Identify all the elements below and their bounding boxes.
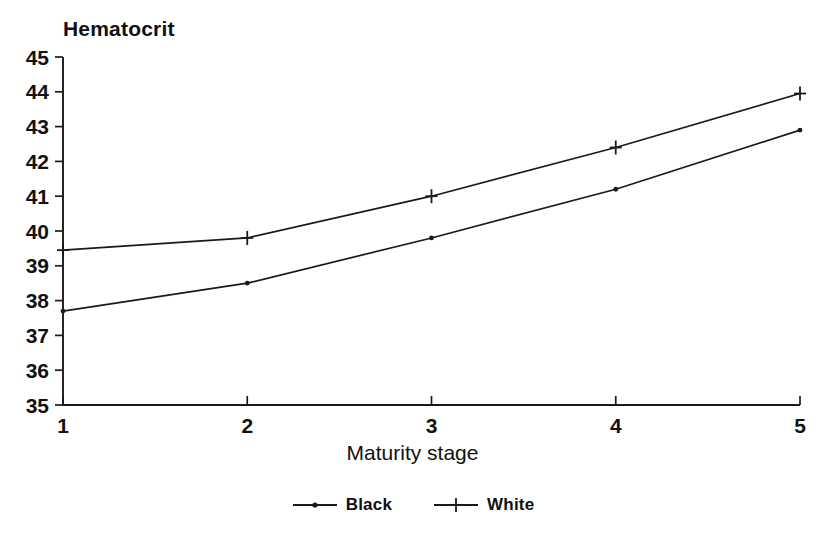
data-point-white (57, 243, 69, 257)
x-axis: 12345 (57, 396, 806, 437)
y-tick-label: 37 (26, 324, 49, 347)
y-tick-label: 41 (26, 185, 50, 208)
y-tick-label: 40 (26, 220, 49, 243)
y-tick-label: 35 (26, 394, 50, 417)
y-axis: 4544434241403938373635 (26, 46, 63, 417)
data-point-white (610, 140, 622, 154)
hematocrit-line-chart: Hematocrit 4544434241403938373635 12345 … (0, 0, 825, 543)
series-line-black (63, 130, 800, 311)
legend-label-black: Black (346, 495, 392, 515)
x-tick-label: 2 (241, 414, 253, 437)
series-line-white (63, 94, 800, 251)
y-tick-label: 42 (26, 150, 49, 173)
x-tick-label: 3 (426, 414, 438, 437)
y-tick-label: 36 (26, 359, 49, 382)
data-point-black (429, 236, 434, 241)
y-tick-label: 45 (26, 46, 50, 69)
y-tick-label: 44 (26, 80, 50, 103)
y-tick-label: 43 (26, 115, 49, 138)
x-tick-label: 1 (57, 414, 69, 437)
data-point-black (613, 187, 618, 192)
data-point-white (241, 231, 253, 245)
x-tick-label: 5 (794, 414, 806, 437)
y-tick-label: 38 (26, 289, 50, 312)
legend-item-white: White (432, 495, 534, 515)
dot-marker-icon (291, 498, 339, 512)
data-point-white (426, 189, 438, 203)
y-tick-label: 39 (26, 254, 49, 277)
chart-legend: Black White (0, 495, 825, 515)
data-point-black (61, 309, 66, 314)
legend-label-white: White (487, 495, 534, 515)
data-point-black (245, 281, 250, 286)
legend-item-black: Black (291, 495, 392, 515)
x-axis-label: Maturity stage (0, 441, 825, 465)
data-point-black (798, 128, 803, 133)
data-series-group (57, 87, 806, 314)
x-tick-label: 4 (610, 414, 622, 437)
plus-marker-icon (432, 497, 480, 513)
data-point-white (794, 87, 806, 101)
